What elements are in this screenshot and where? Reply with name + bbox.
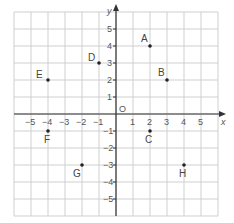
x-tick-label: 4 <box>181 117 186 127</box>
point-label-e: E <box>36 69 43 80</box>
point-h <box>182 163 186 167</box>
x-axis-label: x <box>220 117 226 127</box>
point-c <box>148 129 152 133</box>
point-a <box>148 44 152 48</box>
x-tick-label: −2 <box>76 117 86 127</box>
point-label-c: C <box>145 134 152 145</box>
point-f <box>46 129 50 133</box>
origin-label: O <box>119 104 126 114</box>
y-tick-label: −5 <box>103 194 113 204</box>
coordinate-grid: xyO −5−4−3−2−112345−5−4−3−2−112345 ABCDE… <box>0 0 234 223</box>
x-tick-label: 3 <box>164 117 169 127</box>
x-tick-label: 1 <box>130 117 135 127</box>
point-e <box>46 78 50 82</box>
y-axis-label: y <box>106 6 112 16</box>
point-b <box>165 78 169 82</box>
y-tick-label: 3 <box>107 58 112 68</box>
y-axis-arrow-icon <box>113 4 119 11</box>
x-tick-label: −5 <box>25 117 35 127</box>
x-tick-label: −4 <box>42 117 52 127</box>
y-tick-label: 1 <box>107 92 112 102</box>
point-label-h: H <box>179 168 186 179</box>
y-tick-label: 4 <box>107 41 112 51</box>
point-g <box>80 163 84 167</box>
point-label-g: G <box>73 168 81 179</box>
y-tick-label: 5 <box>107 24 112 34</box>
y-tick-label: −3 <box>103 160 113 170</box>
y-tick-label: −1 <box>103 126 113 136</box>
y-tick-label: −4 <box>103 177 113 187</box>
point-d <box>97 61 101 65</box>
x-tick-label: 2 <box>147 117 152 127</box>
x-tick-label: 5 <box>198 117 203 127</box>
point-label-f: F <box>44 134 50 145</box>
y-tick-label: −2 <box>103 143 113 153</box>
point-label-d: D <box>88 52 95 63</box>
y-tick-label: 2 <box>107 75 112 85</box>
point-label-b: B <box>158 67 165 78</box>
data-points: ABCDEFGH <box>36 33 186 179</box>
x-tick-label: −3 <box>59 117 69 127</box>
point-label-a: A <box>141 33 148 44</box>
x-tick-label: −1 <box>93 117 103 127</box>
axes: xyO <box>14 4 226 216</box>
